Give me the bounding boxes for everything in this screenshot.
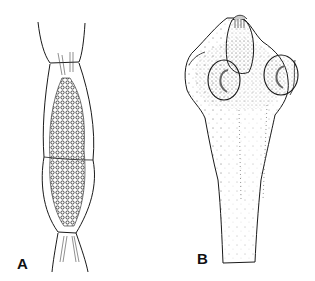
panel-b: B: [155, 0, 315, 281]
panel-b-label: B: [197, 250, 208, 267]
panel-a-label: A: [17, 255, 28, 272]
panel-a: A: [0, 0, 155, 281]
proglottid-drawing: [0, 0, 155, 281]
scolex-drawing: [155, 0, 315, 281]
